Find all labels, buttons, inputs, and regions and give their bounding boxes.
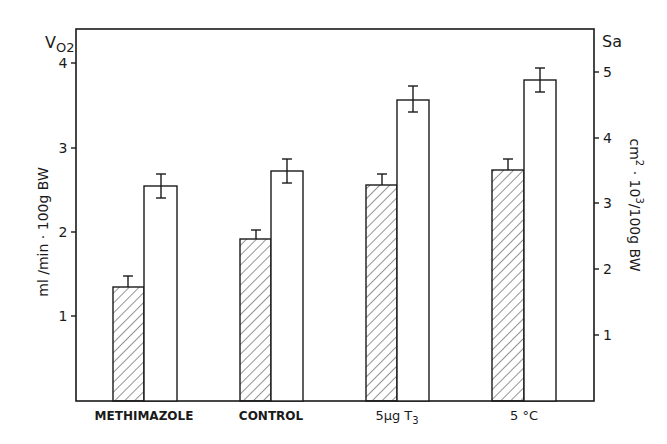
bar-sa-cold: [524, 80, 556, 401]
chart-canvas: 1 2 3 4 VO2 ml /min · 100g BW 1 2 3 4 5 …: [0, 0, 667, 444]
left-tick-2: 2: [59, 224, 68, 240]
bar-sa-methimazole: [144, 186, 177, 401]
bar-vo2-cold: [492, 170, 524, 401]
right-axis-label: cm2 · 103/100g BW: [627, 139, 645, 272]
left-axis-title: VO2: [45, 33, 74, 55]
category-label-methimazole: METHIMAZOLE: [95, 409, 194, 423]
right-tick-5: 5: [603, 64, 612, 80]
bar-group-t3: [366, 86, 429, 401]
bar-group-cold: [492, 68, 556, 401]
right-tick-4: 4: [603, 130, 612, 146]
right-tick-1: 1: [603, 327, 612, 343]
right-tick-2: 2: [603, 261, 612, 277]
right-axis-title: Sa: [602, 32, 622, 51]
left-tick-3: 3: [59, 140, 68, 156]
right-tick-3: 3: [603, 195, 612, 211]
bar-sa-t3: [397, 100, 429, 401]
category-label-control: CONTROL: [239, 409, 304, 423]
left-tick-1: 1: [59, 308, 68, 324]
bar-vo2-methimazole: [113, 287, 144, 401]
bar-group-methimazole: [113, 174, 177, 401]
category-label-t3: 5µg T3: [375, 408, 418, 426]
bar-vo2-control: [240, 239, 271, 401]
bar-sa-control: [271, 171, 303, 401]
category-label-cold: 5 °C: [510, 408, 538, 423]
left-tick-4: 4: [59, 55, 68, 71]
left-axis-label: ml /min · 100g BW: [35, 167, 51, 297]
bar-vo2-t3: [366, 185, 397, 401]
bar-group-control: [240, 159, 303, 401]
